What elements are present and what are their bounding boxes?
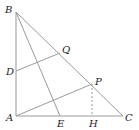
geometry-diagram: B D A E H C P Q (0, 0, 139, 130)
diagram-lines (0, 0, 139, 130)
segment-ap (16, 84, 92, 116)
label-c: C (125, 113, 133, 123)
label-a: A (6, 113, 13, 123)
label-q: Q (62, 45, 70, 55)
label-p: P (95, 77, 102, 87)
label-e: E (57, 119, 64, 129)
segment-dq (16, 53, 60, 71)
label-b: B (5, 5, 12, 15)
label-d: D (6, 67, 14, 77)
label-h: H (89, 119, 98, 129)
